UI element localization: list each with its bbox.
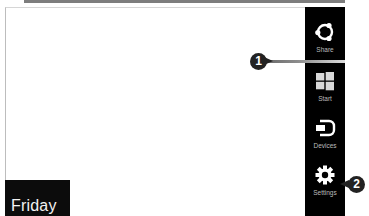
charm-label: Settings <box>313 189 337 197</box>
share-icon <box>314 21 336 43</box>
callout-badge-2: 2 <box>348 176 365 193</box>
charm-settings[interactable]: Settings <box>305 160 345 204</box>
charm-share[interactable]: Share <box>305 17 345 61</box>
callout-badge-1: 1 <box>250 53 267 70</box>
top-divider <box>24 0 345 3</box>
charm-label: Start <box>318 95 332 103</box>
date-tile: Friday <box>5 180 70 216</box>
screenshot-canvas: Friday Share Start <box>0 0 369 216</box>
charm-devices[interactable]: Devices <box>305 113 345 157</box>
charm-label: Devices <box>313 142 336 150</box>
charm-label: Share <box>316 46 333 54</box>
charms-bar: Share Start Devices <box>305 7 345 216</box>
devices-icon <box>314 117 336 139</box>
gear-icon <box>314 164 336 186</box>
callout-1-pointer-line <box>266 60 345 63</box>
charm-start[interactable]: Start <box>305 66 345 110</box>
day-label: Friday <box>11 197 57 215</box>
windows-logo-icon <box>314 70 336 92</box>
